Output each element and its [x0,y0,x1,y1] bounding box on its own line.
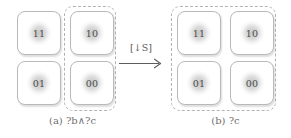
panel-a-caption-tag: (a) [49,115,63,126]
state-cell-label: 11 [18,12,60,54]
state-cell-11-a[interactable]: 11 [17,11,61,55]
panel-b-caption-tag: (b) [211,115,225,126]
figure-container: 11 10 01 00 (a) ?b∧?c [↓S] [0,0,291,138]
state-cell-label: 01 [18,62,60,104]
state-cell-01-b[interactable]: 01 [177,61,221,105]
panel-b-caption-expression: ?c [229,115,240,126]
arrow-right-icon [118,55,164,70]
state-cell-label: 00 [71,62,113,104]
state-cell-label: 00 [231,62,273,104]
state-cell-00-b[interactable]: 00 [230,61,274,105]
state-cell-01-a[interactable]: 01 [17,61,61,105]
state-cell-11-b[interactable]: 11 [177,11,221,55]
state-cell-label: 10 [71,12,113,54]
state-cell-label: 10 [231,12,273,54]
transition-arrow: [↓S] [118,42,164,70]
state-cell-label: 01 [178,62,220,104]
panel-b-caption: (b) ?c [160,115,291,126]
state-cell-10-a[interactable]: 10 [70,11,114,55]
transition-label: [↓S] [118,42,164,53]
panel-a-caption-expression: ?b∧?c [66,115,96,126]
state-grid-a: 11 10 01 00 [17,11,114,105]
state-cell-label: 11 [178,12,220,54]
state-cell-00-a[interactable]: 00 [70,61,114,105]
panel-a-caption: (a) ?b∧?c [0,115,145,126]
state-cell-10-b[interactable]: 10 [230,11,274,55]
panel-b: 11 10 01 00 (b) ?c [160,0,291,138]
state-grid-b: 11 10 01 00 [177,11,274,105]
